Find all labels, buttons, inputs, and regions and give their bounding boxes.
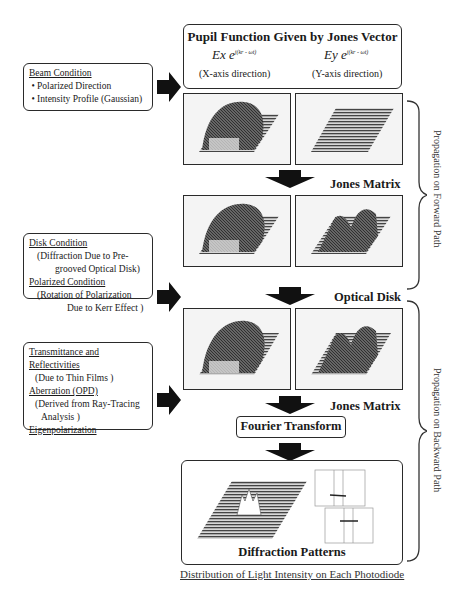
transmittance-text: (Due to Thin Films ) — [29, 372, 147, 385]
pupil-function-title: Pupil Function Given by Jones Vector — [184, 29, 401, 45]
flat-surface-plot — [296, 94, 402, 164]
down-arrow-icon — [265, 443, 315, 461]
plot-x-after-jones — [183, 195, 291, 267]
disk-condition-text: (Diffraction Due to Pre- — [29, 250, 147, 263]
beam-item-text: Intensity Profile (Gaussian) — [37, 94, 142, 104]
fourier-transform-box: Fourier Transform — [236, 416, 346, 438]
forward-path-brace — [405, 100, 427, 290]
pupil-function-box: Pupil Function Given by Jones Vector Ex … — [183, 24, 402, 89]
disk-condition-text: grooved Optical Disk) — [29, 263, 147, 276]
beam-condition-box: Beam Condition • Polarized Direction • I… — [23, 63, 153, 111]
jones-matrix-label-2: Jones Matrix — [330, 399, 400, 414]
ex-label: Ex — [212, 47, 226, 62]
beam-item-text: Polarized Direction — [37, 81, 111, 91]
polarized-condition-heading: Polarized Condition — [29, 276, 147, 289]
x-direction-label: (X-axis direction) — [199, 68, 270, 79]
two-lobe-surface-plot — [296, 196, 402, 266]
transmittance-heading: Transmittance and Reflectivities — [29, 346, 147, 372]
right-arrow-icon — [157, 282, 181, 312]
plot-y-after-disk — [295, 308, 403, 390]
disk-condition-box: Disk Condition (Diffraction Due to Pre- … — [23, 233, 153, 299]
gaussian-surface-plot — [184, 196, 290, 266]
down-arrow-icon — [265, 396, 315, 414]
ey-label: Ey — [324, 47, 338, 62]
beam-item: • Intensity Profile (Gaussian) — [29, 93, 147, 106]
aberration-text: Analysis ) — [29, 411, 147, 424]
gaussian-surface-plot — [184, 309, 290, 389]
right-arrow-icon — [157, 72, 181, 102]
diffraction-surface-plot — [197, 479, 307, 541]
ex-expression: Ex ej(kr - ωt) — [212, 47, 256, 63]
down-arrow-icon — [265, 287, 315, 305]
down-arrow-icon — [265, 170, 315, 188]
y-direction-label: (Y-axis direction) — [312, 68, 382, 79]
photodiode-caption: Distribution of Light Intensity on Each … — [180, 568, 404, 580]
plot-x-forward-input — [183, 93, 291, 165]
plot-y-after-jones — [295, 195, 403, 267]
disk-condition-heading: Disk Condition — [29, 237, 147, 250]
diffraction-patterns-label: Diffraction Patterns — [182, 545, 402, 560]
ey-expression: Ey ej(kr - ωt) — [324, 47, 368, 63]
fourier-transform-label: Fourier Transform — [237, 417, 345, 436]
plot-y-forward-input — [295, 93, 403, 165]
ex-exponent: j(kr - ωt) — [235, 49, 257, 55]
aberration-text: (Derived from Ray-Tracing — [29, 398, 147, 411]
gaussian-surface-plot — [184, 94, 290, 164]
right-arrow-icon — [157, 385, 181, 415]
polarized-condition-text: (Rotation of Polarization — [29, 289, 147, 302]
two-lobe-surface-plot — [296, 309, 402, 389]
aberration-heading: Aberration (OPD) — [29, 385, 147, 398]
polarized-condition-text: Due to Kerr Effect ) — [29, 302, 147, 315]
eigenpolarization-heading: Eigenpolarization — [29, 424, 147, 437]
diffraction-patterns-box: Diffraction Patterns — [181, 460, 403, 565]
beam-condition-heading: Beam Condition — [29, 67, 147, 80]
photodiode-detector-diagram — [314, 469, 394, 544]
ey-exponent: j(kr - ωt) — [347, 49, 369, 55]
jones-matrix-label-1: Jones Matrix — [330, 177, 400, 192]
backward-path-brace — [405, 300, 427, 562]
thin-film-box: Transmittance and Reflectivities (Due to… — [23, 342, 153, 430]
backward-path-label: Propagation on Backward Path — [432, 368, 443, 492]
forward-path-label: Propagation on Forward Path — [432, 130, 443, 248]
beam-item: • Polarized Direction — [29, 80, 147, 93]
plot-x-after-disk — [183, 308, 291, 390]
optical-disk-label: Optical Disk — [334, 290, 401, 305]
